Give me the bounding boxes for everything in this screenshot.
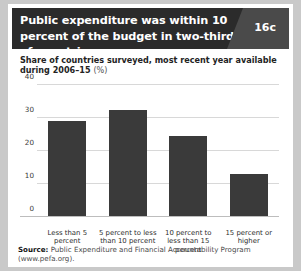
bar[interactable] bbox=[48, 121, 86, 217]
plot-canvas: 010203040 bbox=[37, 85, 279, 217]
chart-subtitle-unit: (%) bbox=[93, 65, 107, 75]
bar[interactable] bbox=[230, 174, 268, 217]
bar-slot bbox=[158, 85, 219, 217]
bar-slot bbox=[98, 85, 159, 217]
figure-number-label: 16c bbox=[254, 21, 276, 34]
y-axis-tick-label: 20 bbox=[25, 137, 34, 146]
y-axis-tick-label: 40 bbox=[25, 71, 34, 80]
source-label: Source: bbox=[18, 245, 48, 254]
source-text: Public Expenditure and Financial Account… bbox=[18, 245, 251, 263]
x-axis-line bbox=[20, 216, 279, 217]
bar[interactable] bbox=[169, 136, 207, 217]
chart-subtitle-text: Share of countries surveyed, most recent… bbox=[20, 55, 277, 75]
y-axis-tick-label: 30 bbox=[25, 104, 34, 113]
y-axis-tick-label: 0 bbox=[29, 203, 34, 212]
bar-slot bbox=[219, 85, 280, 217]
figure-card: Public expenditure was within 10 percent… bbox=[8, 4, 293, 267]
chart-subtitle: Share of countries surveyed, most recent… bbox=[20, 55, 283, 76]
page-title: Public expenditure was within 10 percent… bbox=[20, 13, 242, 49]
bar[interactable] bbox=[109, 110, 147, 217]
y-axis-tick-label: 10 bbox=[25, 170, 34, 179]
source-note: Source: Public Expenditure and Financial… bbox=[18, 245, 283, 263]
bar-series bbox=[37, 85, 279, 217]
plot-area: 010203040 bbox=[20, 79, 285, 229]
bar-slot bbox=[37, 85, 98, 217]
figure-header: Public expenditure was within 10 percent… bbox=[12, 8, 289, 49]
